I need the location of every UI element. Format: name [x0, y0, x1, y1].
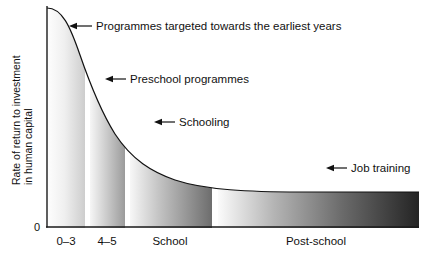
band-0-3 [48, 0, 85, 228]
annotation-job-training: Job training [326, 162, 410, 174]
annotation-arrow-4 [326, 165, 334, 171]
y-axis-tick-zero: 0 [34, 221, 40, 233]
y-axis-title: Rate of return to investment in human ca… [10, 55, 34, 185]
y-axis-title-line-1: Rate of return to investment [10, 55, 22, 185]
x-axis-label-0-3: 0–3 [56, 235, 75, 247]
annotation-label-1: Programmes targeted towards the earliest… [96, 20, 342, 32]
annotation-arrow-3 [154, 119, 162, 125]
annotation-arrow-2 [105, 76, 113, 82]
band-post-school [218, 0, 419, 228]
chart-container: 0 Rate of return to investment in human … [0, 0, 444, 262]
x-axis-label-4-5: 4–5 [97, 235, 116, 247]
annotation-earliest-years: Programmes targeted towards the earliest… [69, 20, 342, 32]
y-axis-title-line-2: in human capital [22, 109, 34, 185]
annotation-preschool-programmes: Preschool programmes [105, 73, 249, 85]
band-4-5 [90, 0, 125, 228]
annotation-label-3: Schooling [179, 116, 230, 128]
annotation-label-4: Job training [351, 162, 410, 174]
annotation-arrow-1 [69, 23, 77, 29]
band-school [130, 0, 212, 228]
annotation-label-2: Preschool programmes [130, 73, 249, 85]
human-capital-return-chart: 0 Rate of return to investment in human … [0, 0, 444, 262]
annotation-schooling: Schooling [154, 116, 230, 128]
x-axis-label-post-school: Post-school [286, 235, 346, 247]
x-axis-label-school: School [152, 235, 187, 247]
